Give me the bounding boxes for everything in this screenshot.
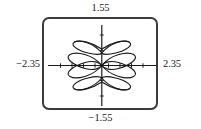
calculator-graph-figure: 1.55 −2.35 2.35 −1.55 — [0, 0, 201, 129]
plotted-curve — [68, 41, 135, 90]
y-max-label: 1.55 — [0, 2, 201, 14]
curve-lower-connector-right — [102, 82, 129, 90]
curve-upper-connector-left — [75, 41, 102, 49]
curve-upper-connector-right — [102, 41, 129, 49]
x-min-label: −2.35 — [2, 58, 40, 70]
curve-lower-lobe-mirror — [102, 77, 131, 90]
x-max-label: 2.35 — [163, 58, 199, 70]
curve-upper-lobe-mirror — [102, 41, 131, 54]
calculator-screen — [42, 17, 158, 110]
curve-lower-connector-left — [75, 82, 102, 90]
curve-upper-lobe — [73, 41, 102, 54]
y-min-label: −1.55 — [0, 112, 201, 124]
curve-lower-lobe — [73, 77, 102, 90]
plot-area — [44, 19, 160, 112]
